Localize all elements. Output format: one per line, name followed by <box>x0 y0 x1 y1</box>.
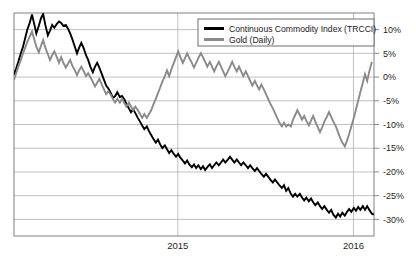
y-tick-label: 5% <box>383 49 396 59</box>
legend-label-trcci: Continuous Commodity Index (TRCCI) <box>229 24 376 34</box>
y-tick-label: -15% <box>383 143 404 153</box>
x-tick-label: 2015 <box>167 240 188 251</box>
y-tick-label: -25% <box>383 191 404 201</box>
legend-label-gold: Gold (Daily) <box>229 35 275 45</box>
chart-legend: Continuous Commodity Index (TRCCI) Gold … <box>198 19 376 46</box>
x-axis-tick-labels: 20152016 <box>167 240 364 251</box>
y-tick-label: 10% <box>383 25 401 35</box>
chart-container: 10%5%0%-5%-10%-15%-20%-25%-30% 20152016 … <box>0 0 416 261</box>
y-tick-label: 0% <box>383 72 396 82</box>
y-tick-label: -5% <box>383 96 399 106</box>
x-tick-label: 2016 <box>343 240 364 251</box>
y-tick-label: -10% <box>383 120 404 130</box>
y-axis-tick-labels: 10%5%0%-5%-10%-15%-20%-25%-30% <box>383 25 404 225</box>
y-tick-label: -30% <box>383 215 404 225</box>
y-tick-label: -20% <box>383 167 404 177</box>
y-axis-tick-marks <box>374 30 379 220</box>
line-chart: 10%5%0%-5%-10%-15%-20%-25%-30% 20152016 … <box>0 0 416 261</box>
